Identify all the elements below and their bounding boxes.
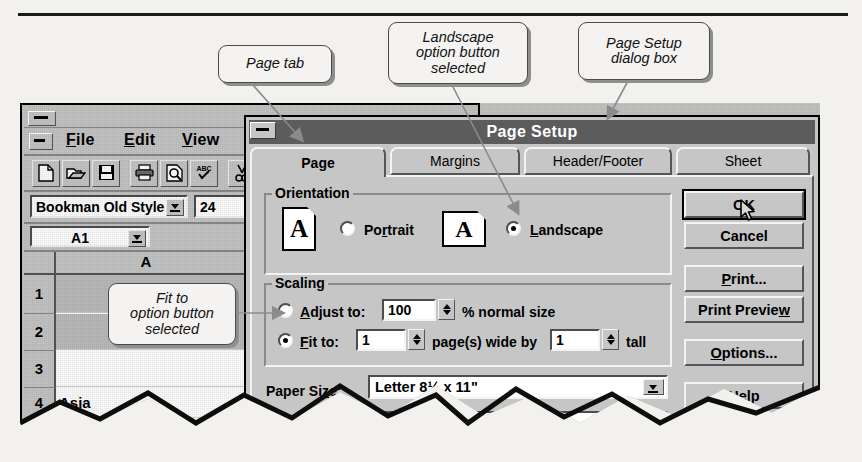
- fit-to-label: Fit to:: [300, 334, 339, 350]
- column-header-a[interactable]: A: [56, 253, 236, 270]
- paper-size-combo[interactable]: Letter 8½ x 11": [368, 375, 668, 399]
- new-file-icon[interactable]: [32, 160, 60, 187]
- fit-to-mid-text: page(s) wide by: [432, 334, 537, 350]
- name-box-value: A1: [32, 230, 128, 246]
- orientation-group-label: Orientation: [272, 185, 353, 201]
- paper-size-label: Paper Size:: [266, 383, 341, 399]
- callout-landscape-line3: selected: [416, 61, 500, 77]
- adjust-to-input[interactable]: 100: [382, 299, 436, 321]
- row-header-3[interactable]: 3: [24, 351, 56, 388]
- tab-header-footer[interactable]: Header/Footer: [524, 147, 672, 175]
- fit-to-tall-spinner[interactable]: [602, 329, 619, 350]
- font-name-value: Bookman Old Style: [36, 199, 164, 215]
- row-header-2[interactable]: 2: [24, 314, 56, 351]
- tab-margins[interactable]: Margins: [390, 147, 520, 175]
- dialog-page-panel: Orientation A Portrait A Landscape Scali…: [250, 175, 814, 437]
- landscape-label: Landscape: [530, 222, 603, 238]
- callout-fit-to-option: Fit to option button selected: [108, 283, 236, 345]
- adjust-to-label: Adjust to:: [300, 304, 365, 320]
- print-quality-dropdown-icon[interactable]: [643, 415, 664, 431]
- landscape-radio[interactable]: [506, 221, 521, 236]
- document-control-menu-icon[interactable]: [29, 133, 53, 150]
- paper-size-value: Letter 8½ x 11": [375, 379, 478, 395]
- dialog-title-bar: Page Setup: [249, 120, 815, 144]
- adjust-to-radio[interactable]: [278, 303, 293, 318]
- print-quality-label: Print Quality:: [266, 419, 354, 435]
- fit-to-tall-input[interactable]: 1: [550, 329, 600, 351]
- name-box[interactable]: A1: [30, 226, 150, 247]
- callout-dialog-line2: dialog box: [606, 51, 682, 67]
- open-folder-icon[interactable]: [62, 160, 90, 187]
- callout-page-tab-text: Page tab: [246, 56, 304, 72]
- fit-to-wide-input[interactable]: 1: [356, 329, 406, 351]
- callout-page-tab: Page tab: [218, 45, 332, 83]
- callout-fitto-line1: Fit to: [130, 291, 214, 307]
- fit-to-radio[interactable]: [278, 333, 293, 348]
- torn-screenshot: File Edit View In ABC: [20, 103, 820, 443]
- row-header-1[interactable]: 1: [24, 275, 56, 314]
- scaling-group: [264, 283, 672, 367]
- menu-view[interactable]: View: [182, 131, 219, 149]
- callout-landscape-option: Landscape option button selected: [388, 22, 528, 84]
- tab-page[interactable]: Page: [250, 147, 386, 177]
- save-floppy-icon[interactable]: [92, 160, 120, 187]
- print-quality-combo[interactable]: 300 d: [368, 411, 668, 435]
- cancel-button[interactable]: Cancel: [684, 222, 804, 249]
- font-name-combo[interactable]: Bookman Old Style: [30, 195, 188, 218]
- menu-file[interactable]: File: [66, 131, 95, 149]
- print-preview-icon[interactable]: [160, 160, 188, 187]
- dialog-control-menu-icon[interactable]: [250, 122, 276, 139]
- scaling-group-label: Scaling: [272, 275, 328, 291]
- font-size-combo[interactable]: 24: [194, 195, 246, 218]
- paper-size-dropdown-icon[interactable]: [643, 379, 664, 395]
- excel-restore-button[interactable]: [28, 111, 56, 126]
- portrait-radio[interactable]: [340, 221, 355, 236]
- print-preview-button[interactable]: Print Preview: [684, 296, 804, 323]
- help-button[interactable]: Help: [684, 382, 804, 409]
- page-setup-dialog: Page Setup Page Margins Header/Footer Sh…: [244, 115, 820, 443]
- tab-sheet[interactable]: Sheet: [676, 147, 810, 175]
- name-box-dropdown-icon[interactable]: [128, 230, 146, 247]
- font-name-dropdown-icon[interactable]: [166, 199, 184, 216]
- callout-fitto-line3: selected: [130, 322, 214, 338]
- callout-landscape-line1: Landscape: [416, 30, 500, 46]
- spelling-check-icon[interactable]: ABC: [190, 160, 218, 187]
- print-quality-value: 300 d: [375, 415, 412, 431]
- row-header-4[interactable]: 4: [24, 388, 56, 419]
- fit-to-wide-spinner[interactable]: [408, 329, 425, 350]
- cell-a5[interactable]: C: [56, 419, 476, 443]
- print-icon[interactable]: [130, 160, 158, 187]
- callout-dialog-line1: Page Setup: [606, 36, 682, 52]
- landscape-page-icon: A: [442, 211, 486, 247]
- portrait-label: Portrait: [364, 222, 414, 238]
- svg-text:ABC: ABC: [196, 165, 211, 172]
- mouse-cursor-icon: [740, 199, 760, 225]
- page-header-rule: [18, 13, 848, 16]
- fit-to-suffix: tall: [626, 334, 646, 350]
- font-size-value: 24: [200, 199, 216, 215]
- callout-page-setup-dialog: Page Setup dialog box: [578, 22, 710, 80]
- row-header-5[interactable]: 5: [24, 419, 56, 443]
- callout-landscape-line2: option button: [416, 45, 500, 61]
- menu-edit[interactable]: Edit: [124, 131, 155, 149]
- dialog-title-text: Page Setup: [486, 123, 577, 141]
- adjust-to-spinner[interactable]: [438, 299, 455, 320]
- select-all-corner[interactable]: [24, 252, 56, 273]
- portrait-page-icon: A: [282, 207, 316, 251]
- print-button[interactable]: Print...: [684, 265, 804, 292]
- dialog-tab-strip: Page Margins Header/Footer Sheet: [250, 147, 814, 175]
- options-button[interactable]: Options...: [684, 339, 804, 366]
- callout-fitto-line2: option button: [130, 306, 214, 322]
- adjust-to-suffix: % normal size: [462, 304, 555, 320]
